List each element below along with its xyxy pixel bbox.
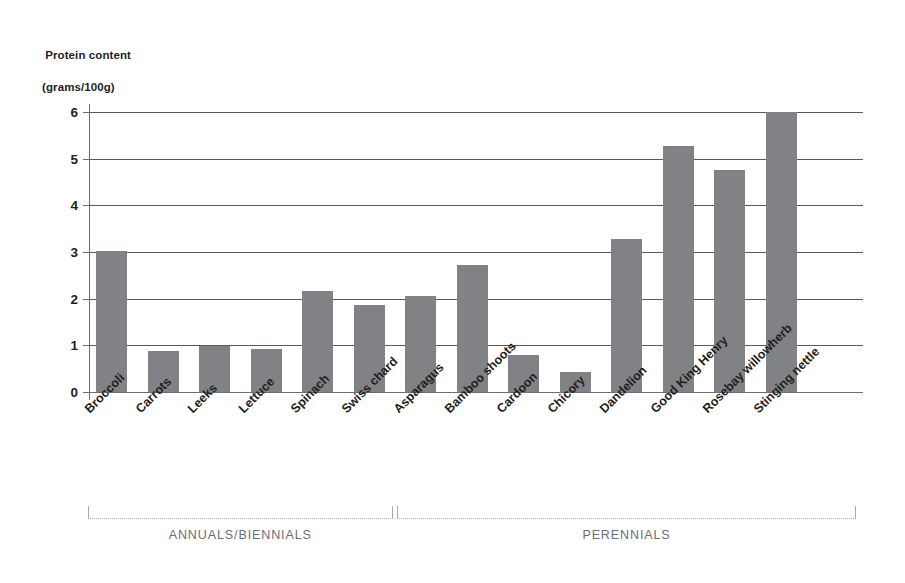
y-axis-tick-labels: 0123456 [40,0,78,583]
bar-good-king-henry[interactable] [663,146,694,392]
bracket-cap-left [88,506,89,519]
bracket-annuals-biennials [88,505,393,519]
gridline-3 [90,252,863,253]
bracket-perennials [397,505,856,519]
protein-content-bar-chart: Protein content (grams/100g) 0123456 Bro… [0,0,905,583]
y-tick-label-6: 6 [48,105,78,120]
y-tick-mark-0 [83,392,90,393]
y-tick-label-1: 1 [48,338,78,353]
y-tick-label-0: 0 [48,385,78,400]
y-tick-label-5: 5 [48,151,78,166]
bracket-label-annuals-biennials: ANNUALS/BIENNIALS [88,528,393,542]
y-tick-label-4: 4 [48,198,78,213]
plot-area [90,112,863,392]
y-tick-label-2: 2 [48,291,78,306]
bracket-cap-right [392,506,393,519]
bar-broccoli[interactable] [96,251,127,392]
bracket-cap-right [855,506,856,519]
y-tick-label-3: 3 [48,245,78,260]
bracket-cap-left [397,506,398,519]
bracket-label-perennials: PERENNIALS [397,528,856,542]
gridline-6 [90,112,863,113]
bracket-line [88,518,393,519]
y-tick-mark-5 [83,159,90,160]
y-tick-mark-2 [83,299,90,300]
bracket-line [397,518,856,519]
y-tick-mark-1 [83,345,90,346]
gridline-4 [90,205,863,206]
y-tick-mark-4 [83,205,90,206]
y-tick-mark-3 [83,252,90,253]
gridline-5 [90,159,863,160]
bar-rosebay-willowherb[interactable] [714,170,745,392]
y-tick-mark-6 [83,112,90,113]
